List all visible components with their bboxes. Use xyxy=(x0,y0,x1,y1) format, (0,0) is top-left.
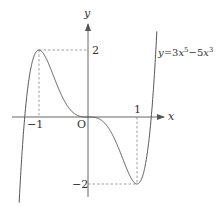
eq-exp2: 3 xyxy=(209,46,213,54)
y-tick-neg2: −2 xyxy=(72,178,88,191)
y-tick-2: 2 xyxy=(92,44,99,57)
x-axis-label: x xyxy=(168,110,175,123)
x-tick-1: 1 xyxy=(134,103,141,116)
x-tick-neg1: −1 xyxy=(27,118,43,131)
eq-part2: −5 xyxy=(189,47,204,58)
y-axis-label: y xyxy=(83,7,91,20)
origin-label: O xyxy=(77,118,86,131)
eq-part1: =3 xyxy=(164,47,179,58)
equation-label: y=3x5−5x3 xyxy=(157,46,213,58)
function-graph: y x O −1 1 2 −2 y=3x5−5x3 xyxy=(0,0,219,207)
